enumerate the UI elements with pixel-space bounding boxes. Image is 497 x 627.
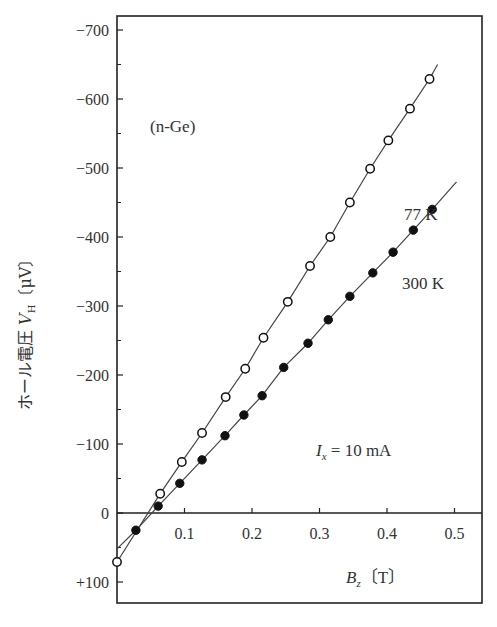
filled-circle-marker (132, 526, 140, 534)
open-circle-marker (198, 429, 206, 437)
y-tick-label: −200 (76, 367, 109, 384)
fit-lines (117, 65, 457, 563)
plot-frame (117, 16, 482, 603)
x-axis-label: Bz〔T〕 (346, 568, 405, 589)
series-label-77k: 77 K (404, 205, 438, 224)
y-tick-label: −100 (76, 436, 109, 453)
filled-circle-marker (369, 269, 377, 277)
y-tick-label: +100 (76, 574, 109, 591)
open-circle-marker (306, 262, 314, 270)
x-tick-label: 0.3 (310, 525, 330, 542)
hall-voltage-chart: −700−600−500−400−300−200−1000+1000.10.20… (0, 0, 497, 627)
filled-circle-marker (304, 339, 312, 347)
open-circle-marker (326, 233, 334, 241)
open-circle-marker (178, 458, 186, 466)
open-circle-marker (156, 489, 164, 497)
y-tick-label: −500 (76, 160, 109, 177)
plot-border (117, 16, 482, 603)
open-circle-marker (113, 558, 121, 566)
open-circle-marker (221, 393, 229, 401)
open-circle-marker (425, 75, 433, 83)
filled-circle-marker (176, 479, 184, 487)
filled-circle-marker (324, 316, 332, 324)
y-tick-label: −600 (76, 91, 109, 108)
current-label: Ix = 10 mA (315, 441, 392, 462)
y-tick-label: −300 (76, 298, 109, 315)
open-circle-marker (259, 334, 267, 342)
filled-circle-marker (154, 502, 162, 510)
filled-circle-marker (409, 226, 417, 234)
series-label-300k: 300 K (402, 274, 445, 293)
y-tick-label: 0 (101, 505, 109, 522)
filled-circle-marker (280, 363, 288, 371)
open-circle-marker (346, 198, 354, 206)
material-label: (n-Ge) (150, 117, 195, 136)
filled-circle-marker (198, 456, 206, 464)
open-circle-marker (241, 365, 249, 373)
filled-circle-marker (221, 432, 229, 440)
open-circle-marker (366, 164, 374, 172)
y-tick-label: −400 (76, 229, 109, 246)
x-tick-label: 0.5 (445, 525, 465, 542)
y-axis-label: ホール電圧 VH〔μV〕 (12, 251, 37, 410)
filled-circle-marker (346, 292, 354, 300)
x-tick-label: 0.4 (377, 525, 397, 542)
open-circle-marker (384, 136, 392, 144)
y-tick-label: −700 (76, 22, 109, 39)
open-circle-marker (406, 104, 414, 112)
filled-circle-marker (258, 392, 266, 400)
x-tick-label: 0.1 (175, 525, 195, 542)
x-tick-label: 0.2 (242, 525, 262, 542)
filled-circle-marker (389, 248, 397, 256)
filled-circle-marker (240, 411, 248, 419)
open-circle-marker (284, 298, 292, 306)
